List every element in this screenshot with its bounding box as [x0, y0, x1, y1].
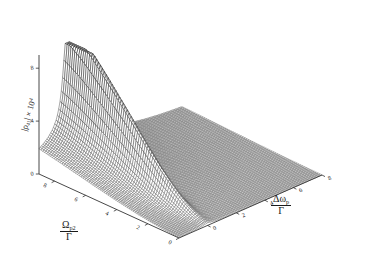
x-axis-subscript: p [286, 198, 289, 205]
surface-plot-figure: Δωp Γ Ωp2 Γ |ρ41| × 104 0246802468048 [0, 0, 392, 265]
z-tick-label-2: 8 [30, 65, 34, 71]
y-axis-denominator: Γ [60, 232, 78, 242]
y-axis-subscript: p2 [69, 224, 75, 231]
z-tick-label-0: 0 [30, 170, 34, 176]
x-axis-denominator: Γ [271, 206, 291, 216]
z-tick-label-1: 4 [30, 117, 34, 123]
x-axis-numerator: Δω [273, 193, 286, 204]
y-axis-label: Ωp2 Γ [60, 220, 78, 242]
surface-plot-canvas [0, 0, 392, 265]
